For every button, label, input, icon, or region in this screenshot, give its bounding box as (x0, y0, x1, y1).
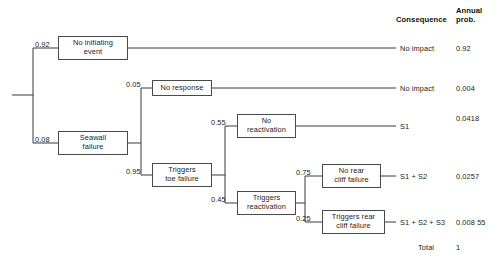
node-label-line2: reactivation (247, 202, 286, 211)
node-no-rear-cliff-failure[interactable]: No rear cliff failure (322, 164, 381, 188)
node-triggers-reactivation[interactable]: Triggers reactivation (237, 191, 296, 215)
branch-prob-triggers-reactivation: 0.45 (211, 195, 226, 204)
node-triggers-rear-cliff-failure[interactable]: Triggers rear cliff failure (322, 210, 385, 234)
node-label-line1: No response (160, 84, 203, 93)
node-seawall-failure[interactable]: Seawall failure (58, 131, 128, 155)
consequence-no-impact-1: No impact (400, 44, 434, 53)
branch-prob-no-response: 0.05 (126, 80, 141, 89)
node-no-reactivation[interactable]: No reactivation (237, 114, 296, 138)
annual-prob-row-4: 0.0257 (456, 172, 479, 181)
node-triggers-toe-failure[interactable]: Triggers toe failure (152, 163, 212, 187)
consequence-s1-s2: S1 + S2 (400, 172, 427, 181)
event-tree-diagram: No initiating event Seawall failure No r… (0, 0, 504, 262)
node-no-initiating-event[interactable]: No initiating event (58, 36, 128, 60)
node-no-response[interactable]: No response (152, 80, 212, 96)
annual-prob-row-5: 0.008 55 (456, 218, 486, 227)
branch-prob-no-rear-cliff-failure: 0.75 (296, 168, 311, 177)
consequence-no-impact-2: No impact (400, 84, 434, 93)
column-header-consequence: Consequence (396, 15, 447, 24)
branch-prob-no-reactivation: 0.55 (211, 118, 226, 127)
branch-prob-no-initiating-event: 0.92 (35, 40, 50, 49)
consequence-s1-s2-s3: S1 + S2 + S3 (400, 218, 445, 227)
column-header-annual-prob-line2: prob. (456, 15, 475, 24)
branch-prob-triggers-rear-cliff-failure: 0.25 (296, 214, 311, 223)
consequence-s1: S1 (400, 122, 409, 131)
total-label: Total (418, 243, 434, 252)
branch-prob-seawall-failure: 0.08 (35, 135, 50, 144)
node-label-line2: event (84, 47, 103, 56)
column-header-annual-prob-line1: Annual (456, 6, 482, 15)
node-label-line2: toe failure (165, 174, 199, 183)
node-label-line2: reactivation (247, 125, 286, 134)
total-value: 1 (456, 243, 460, 252)
node-label-line2: cliff failure (336, 221, 370, 230)
node-label-line2: cliff failure (334, 175, 368, 184)
annual-prob-row-1: 0.92 (456, 44, 471, 53)
annual-prob-row-2: 0.004 (456, 84, 475, 93)
annual-prob-row-3: 0.0418 (456, 114, 479, 123)
branch-prob-triggers-toe-failure: 0.95 (126, 167, 141, 176)
node-label-line2: failure (83, 142, 104, 151)
